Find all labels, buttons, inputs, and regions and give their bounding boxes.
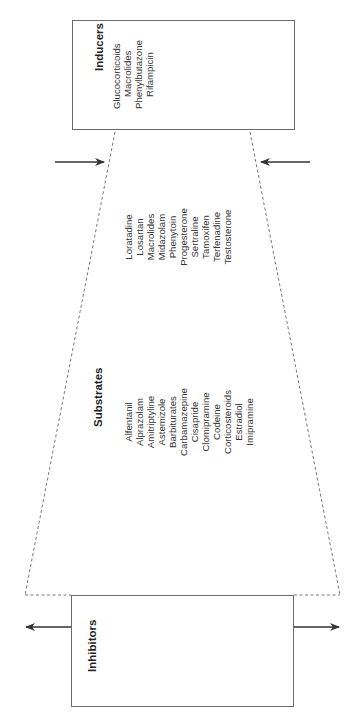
list-item: Macrolides bbox=[145, 172, 156, 302]
list-item: Corticosteroids bbox=[222, 357, 233, 487]
substrates-list-right: Loratadine Losartan Macrolides Midazolam… bbox=[123, 172, 233, 302]
list-item: Rifampicin bbox=[144, 0, 155, 109]
list-item: Phenytoin bbox=[167, 172, 178, 302]
list-item: Glucocorticoids bbox=[111, 0, 122, 109]
list-item: Loratadine bbox=[123, 172, 134, 302]
list-item: Cisapride bbox=[189, 357, 200, 487]
inhibitors-box: Inhibitors bbox=[71, 595, 294, 707]
list-item: Testosterone bbox=[222, 172, 233, 302]
inhibitors-title: Inhibitors bbox=[86, 620, 98, 672]
list-item: Phenylbutazone bbox=[133, 0, 144, 109]
list-item: Imipramine bbox=[244, 357, 255, 487]
substrates-list-left: Alfentanil Alprazolam Amitriptyline Aste… bbox=[123, 357, 255, 487]
list-item: Macrolides bbox=[122, 0, 133, 109]
list-item: Amitriptyline bbox=[145, 357, 156, 487]
inducers-box: Inducers Glucocorticoids Macrolides Phen… bbox=[72, 20, 295, 130]
diagram-canvas: Inducers Glucocorticoids Macrolides Phen… bbox=[0, 0, 360, 727]
list-item: Alfentanil bbox=[123, 357, 134, 487]
list-item: Progesterone bbox=[178, 172, 189, 302]
list-item: Estradiol bbox=[233, 357, 244, 487]
list-item: Tamoxifen bbox=[200, 172, 211, 302]
list-item: Barbiturates bbox=[167, 357, 178, 487]
list-item: Clomipramine bbox=[200, 357, 211, 487]
inducers-title: Inducers bbox=[93, 23, 105, 71]
list-item: Losartan bbox=[134, 172, 145, 302]
inducers-list: Glucocorticoids Macrolides Phenylbutazon… bbox=[111, 0, 155, 109]
list-item: Astemizole bbox=[156, 357, 167, 487]
list-item: Codeine bbox=[211, 357, 222, 487]
list-item: Midazolam bbox=[156, 172, 167, 302]
list-item: Terfenadine bbox=[211, 172, 222, 302]
list-item: Sertraline bbox=[189, 172, 200, 302]
substrates-title: Substrates bbox=[92, 368, 104, 427]
list-item: Alprazolam bbox=[134, 357, 145, 487]
list-item: Carbamazepine bbox=[178, 357, 189, 487]
